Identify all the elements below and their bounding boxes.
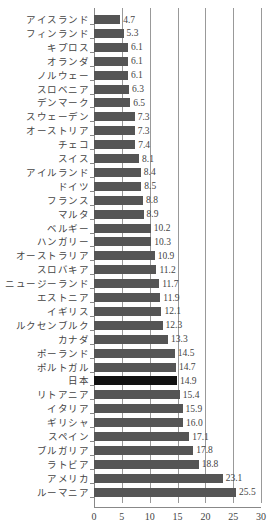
y-tick	[90, 246, 94, 247]
value-label: 5.3	[127, 27, 139, 39]
bar	[94, 182, 141, 191]
value-label: 8.5	[144, 180, 156, 192]
y-tick	[90, 330, 94, 331]
value-label: 8.8	[146, 194, 158, 206]
value-label: 25.5	[239, 486, 256, 498]
y-tick	[90, 413, 94, 414]
gridline	[261, 8, 262, 503]
value-label: 10.2	[154, 222, 171, 234]
bar	[94, 307, 161, 316]
x-tick-label: 30	[256, 511, 266, 522]
bar	[94, 446, 193, 455]
y-tick	[90, 441, 94, 442]
y-tick	[90, 66, 94, 67]
bar	[94, 154, 139, 163]
y-tick	[90, 260, 94, 261]
y-tick	[90, 177, 94, 178]
category-label: スロバキア	[37, 264, 90, 276]
gridline	[178, 8, 179, 503]
value-label: 15.4	[183, 389, 200, 401]
category-label: ニュージーランド	[5, 278, 89, 290]
category-label: リトアニア	[37, 389, 90, 401]
y-tick	[90, 427, 94, 428]
category-label: ポルトガル	[37, 362, 90, 374]
y-tick	[90, 219, 94, 220]
category-label: イギリス	[47, 306, 89, 318]
x-tick-label: 5	[119, 511, 124, 522]
bar	[94, 363, 176, 372]
value-label: 10.3	[154, 236, 171, 248]
x-tick-label: 20	[200, 511, 210, 522]
bar	[94, 474, 223, 483]
value-label: 11.7	[162, 278, 178, 290]
category-label: フィンランド	[26, 28, 89, 40]
value-label: 8.1	[142, 153, 154, 165]
value-label: 16.0	[186, 417, 203, 429]
bar	[94, 15, 120, 24]
y-tick	[90, 80, 94, 81]
value-label: 14.7	[179, 361, 196, 373]
value-label: 6.5	[133, 97, 145, 109]
gridline	[205, 8, 206, 503]
gridline	[233, 8, 234, 503]
category-label: ドイツ	[58, 181, 90, 193]
bar	[94, 71, 128, 80]
y-tick	[90, 94, 94, 95]
category-label: 日本	[68, 375, 89, 387]
value-label: 7.3	[138, 125, 150, 137]
category-label: デンマーク	[37, 97, 90, 109]
y-tick	[90, 191, 94, 192]
bar	[94, 43, 128, 52]
value-label: 8.4	[144, 166, 156, 178]
category-label: カナダ	[58, 334, 90, 346]
value-label: 15.9	[186, 403, 203, 415]
value-label: 8.9	[147, 208, 159, 220]
value-label: 23.1	[226, 472, 243, 484]
category-label: ノルウェー	[37, 70, 90, 82]
y-tick	[90, 274, 94, 275]
value-label: 7.4	[138, 139, 150, 151]
y-tick	[90, 233, 94, 234]
bar	[94, 349, 175, 358]
bar	[94, 140, 135, 149]
value-label: 6.1	[131, 69, 143, 81]
category-label: スロベニア	[37, 84, 90, 96]
value-label: 17.1	[192, 431, 209, 443]
bar	[94, 279, 159, 288]
y-tick	[90, 302, 94, 303]
x-axis	[94, 507, 261, 508]
y-tick	[90, 52, 94, 53]
category-label: ギリシャ	[47, 417, 89, 429]
category-label: マルタ	[58, 209, 90, 221]
category-label: ハンガリー	[37, 236, 90, 248]
bar	[94, 376, 177, 385]
x-tick-label: 0	[92, 511, 97, 522]
y-tick	[90, 372, 94, 373]
y-tick	[90, 497, 94, 498]
value-label: 7.3	[138, 111, 150, 123]
bar	[94, 293, 160, 302]
bar	[94, 432, 189, 441]
bar	[94, 390, 180, 399]
y-tick	[90, 135, 94, 136]
bar	[94, 126, 135, 135]
bar	[94, 29, 124, 38]
bar	[94, 98, 130, 107]
y-tick	[90, 469, 94, 470]
y-tick	[90, 344, 94, 345]
category-label: オーストリア	[26, 125, 89, 137]
category-label: ルクセンブルク	[16, 320, 90, 332]
category-label: スペイン	[48, 431, 89, 443]
y-tick	[90, 163, 94, 164]
y-tick	[90, 316, 94, 317]
category-label: ラトビア	[47, 459, 89, 471]
x-tick-label: 25	[228, 511, 238, 522]
category-label: フランス	[47, 195, 89, 207]
y-tick	[90, 358, 94, 359]
value-label: 11.9	[163, 292, 179, 304]
value-label: 11.2	[159, 264, 175, 276]
category-label: オランダ	[47, 56, 89, 68]
y-tick	[90, 288, 94, 289]
y-tick	[90, 455, 94, 456]
bar	[94, 335, 168, 344]
